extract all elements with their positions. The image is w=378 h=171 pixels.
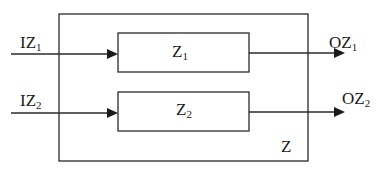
arrowhead-iz1: [107, 49, 118, 59]
output-label-oz1: OZ1: [329, 33, 357, 53]
block-z2-label: Z2: [176, 100, 192, 120]
input-label-iz2: IZ2: [20, 91, 42, 111]
arrowhead-iz2: [107, 108, 118, 118]
outer-block-z: [59, 14, 308, 161]
block-z1-label: Z1: [172, 42, 188, 62]
output-label-oz2: OZ2: [342, 89, 370, 109]
block-diagram: Z Z1 Z2 IZ1 IZ2 OZ1 OZ2: [0, 0, 378, 171]
arrowhead-oz2: [334, 107, 345, 117]
input-label-iz1: IZ1: [20, 33, 42, 53]
outer-block-label: Z: [281, 137, 291, 156]
